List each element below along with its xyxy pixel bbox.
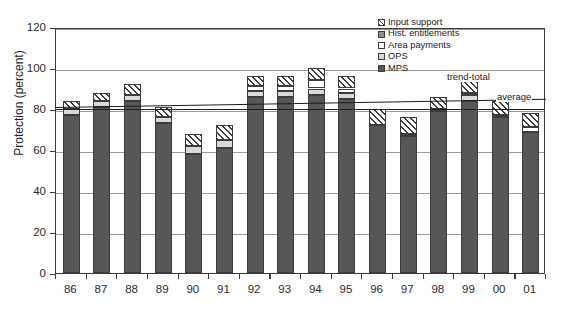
legend-item-ops[interactable]: OPS xyxy=(378,51,459,62)
x-tick-mark xyxy=(361,274,362,279)
bar-89[interactable] xyxy=(155,27,172,273)
bar-segment-mps xyxy=(93,107,110,273)
x-tick-mark xyxy=(55,274,56,279)
x-tick-label-01: 01 xyxy=(515,283,545,295)
legend-item-area[interactable]: Area payments xyxy=(378,40,459,51)
bar-segment-area-payments xyxy=(247,86,264,90)
bar-segment-input-support xyxy=(93,93,110,101)
x-tick-label-87: 87 xyxy=(86,283,116,295)
bar-segment-area-payments xyxy=(338,89,355,93)
x-tick-mark xyxy=(300,274,301,279)
x-tick-mark xyxy=(423,274,424,279)
line-average xyxy=(56,109,544,110)
legend-label: MPS xyxy=(388,63,408,74)
x-tick-mark xyxy=(208,274,209,279)
bar-segment-mps xyxy=(124,101,141,273)
plot-area: trend-totalaverage xyxy=(55,28,545,274)
bar-86[interactable] xyxy=(63,27,80,273)
bar-segment-input-support xyxy=(522,113,539,127)
bar-segment-ops xyxy=(216,140,233,148)
legend-swatch-ops-icon xyxy=(378,53,385,60)
legend-label: OPS xyxy=(388,51,408,62)
bar-segment-mps xyxy=(400,136,417,273)
bar-segment-mps xyxy=(492,117,509,273)
legend-swatch-area-icon xyxy=(378,42,385,49)
legend-label: Input support xyxy=(388,17,442,28)
bar-segment-mps xyxy=(216,148,233,273)
bar-segment-mps xyxy=(185,154,202,273)
bar-segment-mps xyxy=(308,95,325,273)
bar-segment-input-support xyxy=(338,76,355,88)
bar-87[interactable] xyxy=(93,27,110,273)
y-tick-label: 0 xyxy=(0,267,46,279)
bar-segment-mps xyxy=(430,111,447,273)
bar-segment-mps xyxy=(155,123,172,273)
legend-label: Hist. entitlements xyxy=(388,28,459,39)
x-tick-mark xyxy=(484,274,485,279)
bar-segment-input-support xyxy=(369,109,386,125)
x-tick-mark xyxy=(239,274,240,279)
bar-segment-area-payments xyxy=(461,93,478,95)
bar-segment-area-payments xyxy=(277,86,294,90)
y-tick-label: 80 xyxy=(0,103,46,115)
x-tick-mark xyxy=(331,274,332,279)
x-tick-mark xyxy=(178,274,179,279)
bar-segment-input-support xyxy=(308,68,325,80)
x-tick-mark xyxy=(116,274,117,279)
bar-segment-ops xyxy=(155,117,172,123)
bar-94[interactable] xyxy=(308,27,325,273)
bar-segment-ops xyxy=(277,91,294,97)
legend-item-hist[interactable]: Hist. entitlements xyxy=(378,28,459,39)
bar-segment-input-support xyxy=(461,80,478,92)
x-tick-mark xyxy=(147,274,148,279)
legend-item-input[interactable]: Input support xyxy=(378,17,459,28)
y-tick-label: 60 xyxy=(0,144,46,156)
x-tick-label-89: 89 xyxy=(147,283,177,295)
legend-swatch-mps-icon xyxy=(378,65,385,72)
y-tick-label: 40 xyxy=(0,185,46,197)
bar-segment-input-support xyxy=(400,117,417,133)
y-tick-label: 100 xyxy=(0,62,46,74)
legend-swatch-hist-icon xyxy=(378,31,385,38)
x-tick-label-86: 86 xyxy=(55,283,85,295)
bar-95[interactable] xyxy=(338,27,355,273)
x-tick-label-98: 98 xyxy=(423,283,453,295)
x-tick-mark xyxy=(545,274,546,279)
bar-segment-mps xyxy=(247,97,264,273)
x-tick-mark xyxy=(269,274,270,279)
bar-segment-input-support xyxy=(247,76,264,86)
bar-segment-input-support xyxy=(216,125,233,139)
bar-segment-ops xyxy=(308,89,325,95)
bar-segment-ops xyxy=(338,93,355,99)
bar-90[interactable] xyxy=(185,27,202,273)
bar-segment-mps xyxy=(369,125,386,273)
bar-01[interactable] xyxy=(522,27,539,273)
x-tick-label-93: 93 xyxy=(270,283,300,295)
bar-segment-ops xyxy=(247,91,264,97)
bar-99[interactable] xyxy=(461,27,478,273)
x-tick-label-90: 90 xyxy=(178,283,208,295)
bar-00[interactable] xyxy=(492,27,509,273)
bar-segment-mps xyxy=(63,115,80,273)
bar-91[interactable] xyxy=(216,27,233,273)
chart-legend: Input supportHist. entitlementsArea paym… xyxy=(378,17,459,74)
legend-label: Area payments xyxy=(388,40,451,51)
legend-item-mps[interactable]: MPS xyxy=(378,63,459,74)
bar-segment-input-support xyxy=(124,84,141,94)
x-tick-label-94: 94 xyxy=(300,283,330,295)
bar-segment-mps xyxy=(461,101,478,273)
bar-93[interactable] xyxy=(277,27,294,273)
bar-segment-mps xyxy=(338,99,355,273)
bar-segment-input-support xyxy=(185,134,202,146)
bar-segment-area-payments xyxy=(492,115,509,117)
x-tick-label-95: 95 xyxy=(331,283,361,295)
line-label-average: average xyxy=(496,91,532,102)
bar-segment-ops xyxy=(185,146,202,154)
y-tick-label: 120 xyxy=(0,21,46,33)
x-tick-label-92: 92 xyxy=(239,283,269,295)
bar-88[interactable] xyxy=(124,27,141,273)
bar-92[interactable] xyxy=(247,27,264,273)
bar-segment-area-payments xyxy=(308,80,325,88)
x-tick-label-91: 91 xyxy=(208,283,238,295)
x-tick-label-00: 00 xyxy=(484,283,514,295)
